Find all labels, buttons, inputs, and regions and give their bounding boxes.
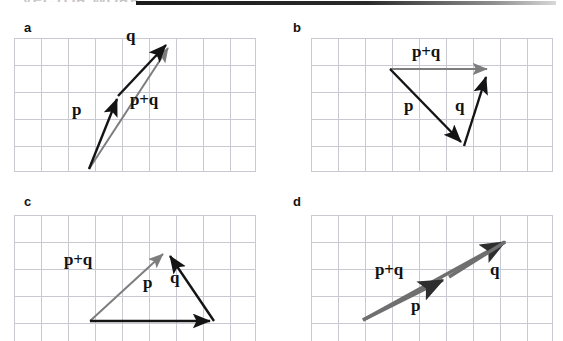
vector-d-p: [363, 280, 443, 320]
figure-page: VECTOR WORK a: [0, 0, 563, 341]
vector-label-d-sum: p+q: [375, 260, 403, 280]
vectors-d: [0, 0, 563, 341]
vector-label-d-p: p: [411, 296, 420, 316]
vector-label-d-q: q: [490, 260, 499, 280]
